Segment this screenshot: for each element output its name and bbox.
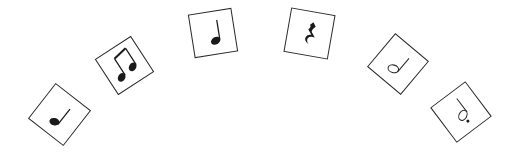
music-symbol-cards-diagram: Quarter note Pair of eighth notes Quarte… [0,0,516,159]
card-quarter-rest: Quarter rest [283,7,335,59]
card-dotted-half-note: Dotted half note [430,81,492,143]
dotted-half-note-icon [432,83,491,142]
card-half-note: Half note [367,33,429,95]
card-beamed-eighth-notes: Pair of eighth notes [94,35,153,94]
quarter-rest-icon [284,8,334,58]
quarter-note-icon [29,84,89,144]
beamed-eighth-notes-icon [96,37,153,94]
card-quarter-note-1: Quarter note [27,82,90,145]
half-note-icon [368,34,427,93]
card-quarter-note-2: Quarter note [188,8,238,58]
quarter-note-icon [189,9,237,57]
